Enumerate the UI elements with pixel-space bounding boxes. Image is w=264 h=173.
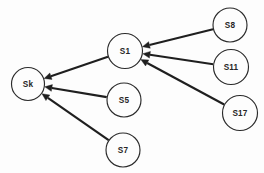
graph-node-s5[interactable]: S5	[107, 83, 141, 117]
edge-s1-sk	[51, 57, 108, 76]
edge-s11-s1	[150, 55, 213, 65]
edge-s5-sk-arrowhead-icon	[45, 85, 53, 92]
edge-s8-s1	[149, 29, 213, 45]
node-label-s8: S8	[225, 21, 236, 30]
edge-s8-s1-arrowhead-icon	[142, 42, 150, 49]
graph-node-s1[interactable]: S1	[108, 34, 143, 69]
node-label-s7: S7	[118, 146, 129, 155]
edge-s1-sk-arrowhead-icon	[44, 73, 52, 79]
graph-node-s11[interactable]: S11	[214, 50, 249, 85]
graph-svg: SkS1S5S7S8S11S17	[0, 0, 264, 173]
edge-s17-s1	[147, 63, 224, 105]
graph-node-s8[interactable]: S8	[213, 8, 247, 42]
edge-s11-s1-arrowhead-icon	[143, 51, 151, 58]
edge-s5-sk	[52, 88, 107, 97]
graph-node-s7[interactable]: S7	[106, 133, 140, 167]
node-label-s11: S11	[224, 63, 239, 72]
edge-s7-sk	[48, 98, 109, 140]
node-label-s1: S1	[120, 47, 131, 56]
diagram-canvas: SkS1S5S7S8S11S17	[0, 0, 264, 173]
node-label-s5: S5	[119, 96, 130, 105]
node-label-s17: S17	[232, 109, 247, 118]
graph-node-s17[interactable]: S17	[223, 96, 258, 131]
graph-node-sk[interactable]: Sk	[12, 68, 45, 101]
node-label-sk: Sk	[23, 80, 34, 89]
